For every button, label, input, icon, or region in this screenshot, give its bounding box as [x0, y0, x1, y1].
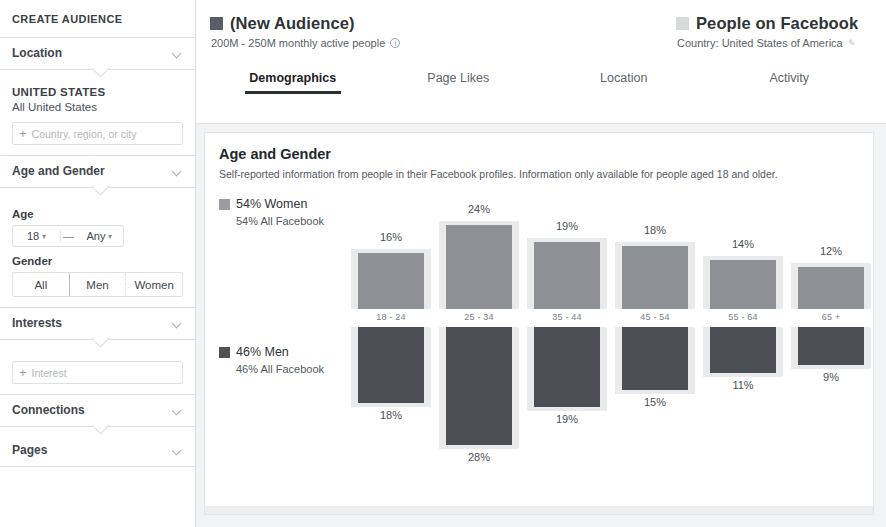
age-min-stepper[interactable]: 18 ▾: [13, 226, 60, 246]
age-range-control[interactable]: 18 ▾ — Any ▾: [12, 225, 124, 247]
sidebar-section-pages[interactable]: Pages: [0, 435, 195, 466]
bar-men-45-54[interactable]: [615, 327, 695, 394]
bar-fill-women: [534, 242, 600, 309]
location-country-sub: All United States: [12, 98, 183, 113]
legend-women-label: 54% Women: [236, 197, 307, 211]
bar-value-label-women: 14%: [703, 238, 783, 250]
gender-option-women[interactable]: Women: [126, 273, 182, 296]
axis-label-35-44: 35 - 44: [527, 312, 607, 322]
bar-value-label-women: 12%: [791, 245, 871, 257]
bar-women-35-44[interactable]: [527, 238, 607, 309]
location-panel: UNITED STATES All United States + Countr…: [0, 78, 195, 155]
bar-women-25-34[interactable]: [439, 221, 519, 309]
divider-notch: [0, 426, 195, 435]
bar-value-label-men: 11%: [703, 379, 783, 391]
bar-value-label-men: 19%: [527, 413, 607, 425]
sidebar-section-connections[interactable]: Connections: [0, 395, 195, 426]
audience-swatch-icon: [210, 17, 223, 30]
pencil-icon[interactable]: ✎: [848, 38, 856, 48]
age-min-value: 18: [27, 230, 39, 242]
sidebar-section-location-label: Location: [12, 46, 62, 60]
tab-demographics[interactable]: Demographics: [210, 71, 376, 94]
axis-label-18-24: 18 - 24: [351, 312, 431, 322]
comparison-title: People on Facebook: [696, 14, 858, 33]
sidebar-section-location[interactable]: Location: [0, 38, 195, 69]
tab-location[interactable]: Location: [541, 71, 707, 94]
audience-header: (New Audience) 200M - 250M monthly activ…: [196, 0, 886, 124]
gender-option-men[interactable]: Men: [70, 273, 127, 296]
audience-subtitle: 200M - 250M monthly active people: [211, 37, 385, 49]
bar-value-label-women: 19%: [527, 220, 607, 232]
bar-value-label-women: 18%: [615, 224, 695, 236]
bar-men-35-44[interactable]: [527, 327, 607, 411]
age-gender-panel: Age 18 ▾ — Any ▾ Gender All Men Women: [0, 196, 195, 307]
audience-title: (New Audience): [230, 14, 355, 33]
age-max-stepper[interactable]: Any ▾: [76, 226, 123, 246]
legend-men-label: 46% Men: [236, 345, 289, 359]
bar-women-55-64[interactable]: [703, 256, 783, 309]
bar-men-65+[interactable]: [791, 327, 871, 369]
bar-fill-men: [798, 327, 864, 365]
axis-label-65+: 65 +: [791, 312, 871, 322]
bar-fill-women: [798, 267, 864, 309]
chevron-down-icon: [172, 320, 183, 327]
info-icon[interactable]: i: [390, 38, 400, 48]
chevron-down-icon: [172, 447, 183, 454]
legend-men-sublabel: 46% All Facebook: [236, 363, 324, 375]
axis-label-55-64: 55 - 64: [703, 312, 783, 322]
bar-value-label-women: 16%: [351, 231, 431, 243]
bar-fill-women: [710, 260, 776, 309]
interests-input[interactable]: + Interest: [12, 361, 183, 384]
tab-page-likes[interactable]: Page Likes: [376, 71, 542, 94]
divider-notch: [0, 187, 195, 196]
plus-icon: +: [19, 127, 27, 140]
bar-value-label-men: 15%: [615, 396, 695, 408]
age-max-value: Any: [87, 230, 106, 242]
stepper-caret-icon: ▾: [42, 232, 46, 241]
card-bottom-strip: [205, 506, 873, 514]
comparison-swatch-icon: [676, 17, 689, 30]
chevron-down-icon: [172, 407, 183, 414]
bar-men-55-64[interactable]: [703, 327, 783, 377]
bar-value-label-men: 9%: [791, 371, 871, 383]
location-input-placeholder: Country, region, or city: [32, 128, 137, 140]
stepper-caret-icon: ▾: [108, 232, 112, 241]
legend-women-swatch-icon: [219, 199, 230, 210]
bar-fill-women: [622, 246, 688, 309]
comparison-summary: People on Facebook Country: United State…: [541, 14, 872, 49]
tab-activity[interactable]: Activity: [707, 71, 873, 94]
tab-bar: Demographics Page Likes Location Activit…: [196, 71, 886, 94]
create-audience-sidebar: CREATE AUDIENCE Location UNITED STATES A…: [0, 0, 196, 527]
bar-women-65+[interactable]: [791, 263, 871, 309]
chevron-down-icon: [172, 168, 183, 175]
main-content: (New Audience) 200M - 250M monthly activ…: [196, 0, 886, 527]
bar-women-45-54[interactable]: [615, 242, 695, 309]
bar-fill-women: [446, 225, 512, 309]
gender-option-all[interactable]: All: [12, 272, 70, 297]
sidebar-section-interests[interactable]: Interests: [0, 308, 195, 339]
bar-fill-men: [446, 327, 512, 445]
interests-input-placeholder: Interest: [32, 367, 67, 379]
bar-men-18-24[interactable]: [351, 327, 431, 407]
legend-women: 54% Women 54% All Facebook: [219, 197, 324, 227]
age-gender-card: Age and Gender Self-reported information…: [204, 132, 874, 515]
bar-men-25-34[interactable]: [439, 327, 519, 449]
axis-label-45-54: 45 - 54: [615, 312, 695, 322]
bar-fill-women: [358, 253, 424, 309]
sidebar-section-pages-label: Pages: [12, 443, 47, 457]
bar-value-label-women: 24%: [439, 203, 519, 215]
age-label: Age: [12, 208, 183, 220]
sidebar-section-interests-label: Interests: [12, 316, 62, 330]
legend-women-sublabel: 54% All Facebook: [236, 215, 324, 227]
bar-fill-men: [358, 327, 424, 403]
location-input[interactable]: + Country, region, or city: [12, 122, 183, 145]
bar-women-18-24[interactable]: [351, 249, 431, 309]
sidebar-section-age-gender[interactable]: Age and Gender: [0, 156, 195, 187]
bar-value-label-men: 28%: [439, 451, 519, 463]
location-country-heading: UNITED STATES: [12, 82, 183, 98]
bar-fill-men: [622, 327, 688, 390]
gender-label: Gender: [12, 255, 183, 267]
card-description: Self-reported information from people in…: [219, 168, 859, 180]
age-gender-chart: 16%18 - 2418%24%25 - 3428%19%35 - 4419%1…: [351, 191, 874, 501]
divider-notch: [0, 69, 195, 78]
